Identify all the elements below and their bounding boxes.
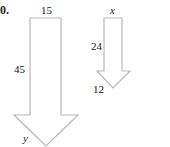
small-arrow-shape bbox=[97, 18, 130, 88]
large-arrow-head-label: y bbox=[23, 133, 28, 144]
similar-arrows-figure bbox=[0, 0, 170, 147]
small-arrow-head-label: 12 bbox=[93, 84, 104, 95]
large-arrow-top-label: 15 bbox=[41, 5, 52, 16]
large-arrow-shaft-label: 45 bbox=[14, 64, 25, 75]
small-arrow-shaft-label: 24 bbox=[91, 41, 102, 52]
problem-number: 0. bbox=[0, 5, 9, 16]
large-arrow-shape bbox=[14, 18, 78, 146]
small-arrow-top-label: x bbox=[110, 5, 115, 16]
